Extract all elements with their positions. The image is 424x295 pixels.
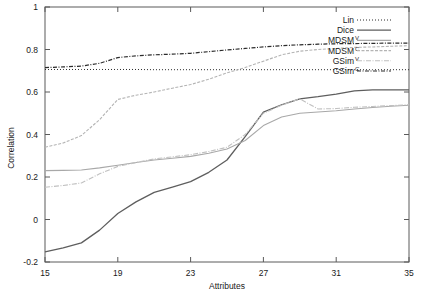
chart-background [0,0,424,295]
y-tick-label: -0.2 [23,257,38,267]
y-tick-label: 0.8 [26,45,38,55]
legend-label-gsim-c: GSim [333,66,354,76]
legend-label-mdsm-c: MDSM [328,46,354,56]
y-tick-label: 0 [33,215,38,225]
x-tick-label: 23 [186,268,196,278]
y-tick-label: 1 [33,2,38,12]
y-tick-label: 0.2 [26,172,38,182]
x-tick-label: 27 [259,268,269,278]
legend-label-gsim-v: GSim [333,56,354,66]
x-tick-label: 15 [40,268,50,278]
line-chart: -0.200.20.40.60.81 151923273135 Correlat… [0,0,424,295]
legend-label-lin: Lin [343,15,355,25]
y-tick-label: 0.6 [26,87,38,97]
x-tick-label: 35 [404,268,414,278]
x-tick-label: 19 [113,268,123,278]
legend-label-mdsm-v: MDSM [328,35,354,45]
y-tick-label: 0.4 [26,130,38,140]
y-axis-title: Correlation [6,127,16,169]
chart-figure: -0.200.20.40.60.81 151923273135 Correlat… [0,0,424,295]
x-axis-title: Attributes [209,281,245,291]
x-tick-label: 31 [331,268,341,278]
legend-label-dice: Dice [337,25,354,35]
